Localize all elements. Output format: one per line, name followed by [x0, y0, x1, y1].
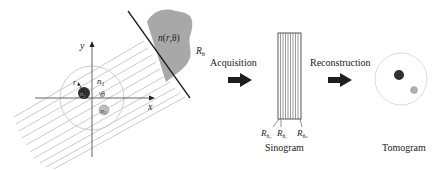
tomogram-caption: Tomogram [382, 142, 426, 153]
y-axis-label: y [79, 40, 85, 51]
sinogram-caption: Sinogram [265, 142, 304, 153]
theta-label: θ [101, 90, 105, 99]
acquisition-label: Acquisition [210, 57, 257, 68]
projection-label: Rθ [195, 46, 205, 57]
radius-label: r [73, 78, 77, 87]
tomogram: Tomogram [375, 53, 427, 153]
projection-label-n: Rθₙ [296, 128, 308, 139]
tomogram-light-inclusion [411, 87, 418, 94]
projection-label-0: Rθ₀ [260, 128, 271, 139]
tomogram-dark-inclusion [394, 70, 404, 80]
y-axis-arrow-icon [90, 41, 95, 47]
x-axis-label: x [147, 101, 153, 112]
n1-label: n1 [97, 76, 105, 87]
projection-label-1: Rθ₁ [276, 128, 287, 139]
reconstruction-step: Reconstruction [310, 57, 371, 87]
field-label: n(r,θ) [158, 33, 180, 44]
sinogram: Rθ₀ Rθ₁ Rθₙ Sinogram [260, 33, 308, 153]
acquisition-arrow-icon [228, 73, 252, 87]
reconstruction-arrow-icon [328, 73, 352, 87]
tomography-diagram: x y n2 r n1 θ n3 n(r,θ) Rθ Acquisition [0, 0, 444, 169]
projection-profile [147, 10, 192, 83]
axes [35, 44, 152, 157]
reconstruction-label: Reconstruction [310, 57, 371, 68]
acquisition-step: Acquisition [210, 57, 257, 87]
object-panel: x y n2 r n1 θ n3 n(r,θ) Rθ [14, 10, 205, 170]
